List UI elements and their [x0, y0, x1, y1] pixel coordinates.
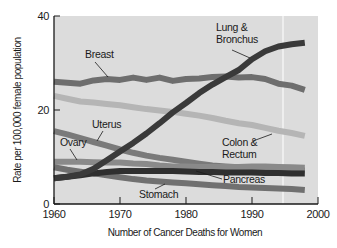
series-label-breast: Breast	[85, 48, 114, 60]
x-tick-label: 1970	[109, 208, 132, 220]
y-tick-label: 20	[38, 104, 50, 116]
x-tick-label: 2000	[307, 208, 330, 220]
y-tick-label: 40	[38, 10, 50, 22]
series-label-ovary: Ovary	[60, 136, 88, 148]
x-tick-label: 1990	[241, 208, 264, 220]
y-tick-label: 0	[43, 198, 49, 210]
x-axis-title: Number of Cancer Deaths for Women	[108, 227, 262, 238]
series-label-stomach: Stomach	[139, 188, 179, 200]
x-tick-label: 1980	[175, 208, 198, 220]
y-axis-title: Rate per 100,000 female population	[12, 37, 23, 182]
cancer-death-rate-chart: 1960197019801990200002040 Number of Canc…	[0, 0, 337, 248]
series-label-pancreas: Pancreas	[223, 173, 265, 185]
series-label-colon-rectum: Colon &Rectum	[222, 136, 258, 160]
series-label-uterus: Uterus	[92, 118, 121, 130]
